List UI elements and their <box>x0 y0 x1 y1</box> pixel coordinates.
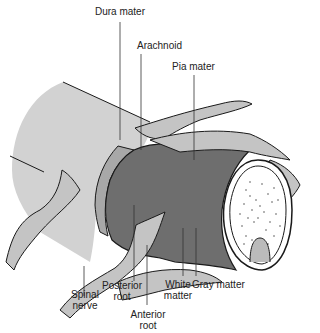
label-arachnoid: Arachnoid <box>137 40 182 51</box>
label-posterior-root-line1: Posterior <box>100 280 144 291</box>
label-anterior-root-line2: root <box>127 320 169 331</box>
label-posterior-root-line2: root <box>100 291 144 302</box>
label-anterior-root-line1: Anterior <box>127 309 169 320</box>
label-gray-matter: Gray matter <box>192 279 245 290</box>
label-dura-mater: Dura mater <box>95 6 145 17</box>
label-spinal-nerve: Spinal nerve <box>68 289 102 311</box>
label-spinal-nerve-line2: nerve <box>68 300 102 311</box>
label-pia-mater: Pia mater <box>172 61 215 72</box>
label-white-matter-line2: matter <box>158 290 198 301</box>
label-anterior-root: Anterior root <box>127 309 169 331</box>
label-posterior-root: Posterior root <box>100 280 144 302</box>
label-spinal-nerve-line1: Spinal <box>68 289 102 300</box>
